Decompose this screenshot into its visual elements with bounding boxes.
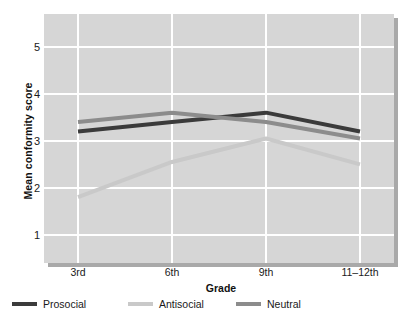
x-axis-title: Grade [44, 282, 398, 294]
x-tick-label: 6th [165, 266, 180, 278]
x-tick-label: 9th [259, 266, 274, 278]
y-tick-label: 2 [18, 182, 40, 194]
legend-label: Antisocial [159, 298, 204, 310]
y-tick-label: 3 [18, 135, 40, 147]
chart-figure: Mean conformity score 12345 3rd6th9th11–… [0, 0, 409, 330]
plot-shell [44, 14, 394, 263]
legend-item-antisocial[interactable]: Antisocial [128, 297, 204, 311]
y-tick-label: 1 [18, 229, 40, 241]
legend-label: Neutral [267, 298, 301, 310]
legend-swatch-icon [12, 302, 37, 306]
y-axis-tick-labels: 12345 [14, 14, 40, 263]
x-axis-tick-labels: 3rd6th9th11–12th [44, 266, 398, 282]
series-line-antisocial [78, 139, 360, 198]
legend-swatch-icon [236, 302, 261, 306]
x-tick-label: 11–12th [341, 266, 378, 278]
y-tick-label: 4 [18, 88, 40, 100]
legend-item-neutral[interactable]: Neutral [236, 297, 301, 311]
plot-area [44, 14, 394, 263]
legend-item-prosocial[interactable]: Prosocial [12, 297, 86, 311]
legend-label: Prosocial [43, 298, 86, 310]
x-tick-label: 3rd [70, 266, 85, 278]
legend-swatch-icon [128, 302, 153, 306]
y-tick-label: 5 [18, 41, 40, 53]
chart-legend: ProsocialAntisocialNeutral [12, 297, 402, 311]
series-lines [44, 14, 394, 263]
